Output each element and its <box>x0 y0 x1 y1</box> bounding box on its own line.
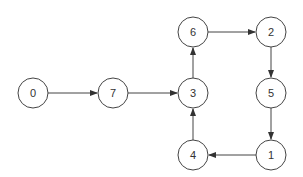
node-2: 2 <box>256 17 286 47</box>
node-1: 1 <box>256 140 286 170</box>
node-5: 5 <box>256 78 286 108</box>
node-label: 1 <box>268 149 274 161</box>
node-label: 0 <box>30 87 36 99</box>
node-label: 7 <box>110 87 116 99</box>
node-4: 4 <box>178 140 208 170</box>
graph-diagram: 07362514 <box>0 0 303 177</box>
node-7: 7 <box>98 78 128 108</box>
node-3: 3 <box>178 78 208 108</box>
node-label: 6 <box>190 26 196 38</box>
node-0: 0 <box>18 78 48 108</box>
node-label: 5 <box>268 87 274 99</box>
node-label: 3 <box>190 87 196 99</box>
node-label: 4 <box>190 149 196 161</box>
node-6: 6 <box>178 17 208 47</box>
node-label: 2 <box>268 26 274 38</box>
edges-layer <box>48 32 271 155</box>
